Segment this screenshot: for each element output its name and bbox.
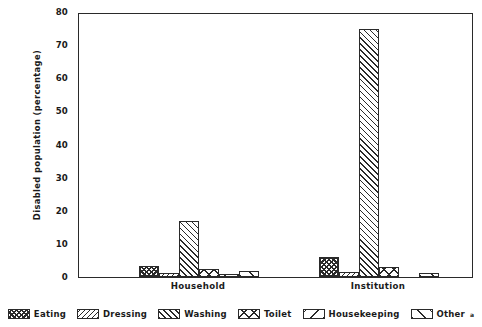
cross-hatch-swatch (238, 309, 260, 319)
wide-backslash-swatch (303, 309, 325, 319)
bar-institution-eating (319, 257, 339, 277)
y-axis-title: Disabled population (percentage) (32, 3, 42, 268)
legend-item-other[interactable]: Othera (411, 309, 475, 319)
legend-item-washing[interactable]: Washing (158, 309, 227, 319)
plot-area (78, 13, 473, 278)
legend-item-label: Dressing (103, 309, 147, 319)
y-axis-tick-label: 70 (56, 40, 68, 50)
backslash-hatch-swatch (77, 309, 99, 319)
bar-institution-other (419, 273, 439, 277)
bar-household-toilet (199, 269, 219, 277)
y-axis-tick-label: 80 (56, 7, 68, 17)
legend-item-label: Washing (184, 309, 227, 319)
legend-item-label: Toilet (264, 309, 292, 319)
bar-institution-toilet (379, 267, 399, 277)
y-axis-tick-label: 50 (56, 106, 68, 116)
y-axis-tick-label: 40 (56, 140, 68, 150)
bar-household-washing (179, 221, 199, 277)
bar-household-housekeeping (219, 274, 239, 277)
legend-item-dressing[interactable]: Dressing (77, 309, 147, 319)
legend: EatingDressingWashingToiletHousekeepingO… (0, 303, 482, 325)
bar-institution-washing (359, 29, 379, 277)
bar-household-dressing (159, 273, 179, 277)
legend-footnote-marker: a (470, 311, 474, 318)
x-axis-group-label-household: Household (138, 281, 258, 291)
legend-item-toilet[interactable]: Toilet (238, 309, 292, 319)
checker-hatch-swatch (8, 309, 30, 319)
slash-hatch-swatch (158, 309, 180, 319)
y-axis-tick-label: 0 (62, 272, 68, 282)
legend-item-label: Other (437, 309, 466, 319)
y-axis-tick-label: 60 (56, 73, 68, 83)
legend-item-label: Eating (34, 309, 66, 319)
bar-chart: Disabled population (percentage) 8070605… (0, 0, 482, 327)
wide-slash-swatch (411, 309, 433, 319)
bar-household-other (239, 271, 259, 277)
x-axis-group-label-institution: Institution (318, 281, 438, 291)
legend-item-housekeeping[interactable]: Housekeeping (303, 309, 400, 319)
bar-institution-dressing (339, 272, 359, 277)
y-axis-tick-label: 10 (56, 239, 68, 249)
y-axis-tick-label: 20 (56, 206, 68, 216)
legend-item-eating[interactable]: Eating (8, 309, 66, 319)
legend-item-label: Housekeeping (329, 309, 400, 319)
y-axis-tick-label: 30 (56, 173, 68, 183)
bar-household-eating (139, 266, 159, 277)
